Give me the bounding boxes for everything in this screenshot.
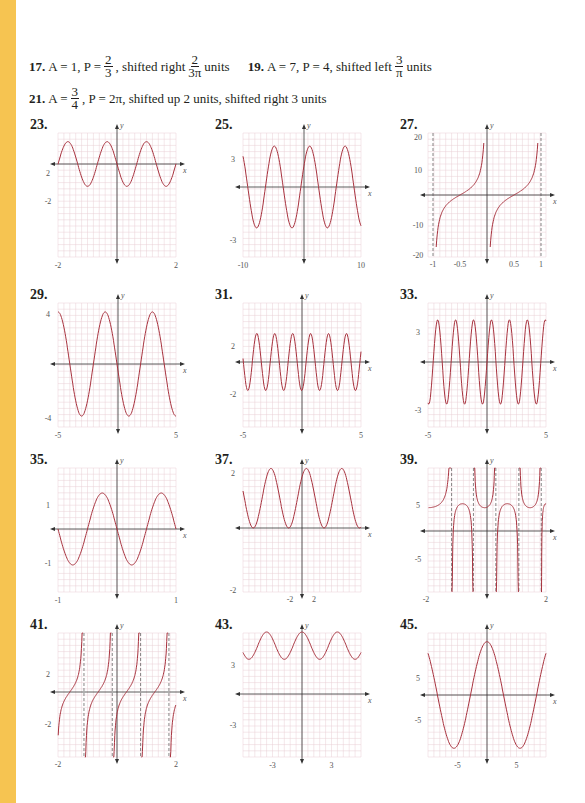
svg-text:-2: -2 [45, 720, 52, 729]
graph-plot: xy4-4-55 [30, 287, 230, 457]
svg-text:2: 2 [46, 169, 50, 178]
svg-text:y: y [304, 456, 309, 465]
graph-panel-43: 43.xy3-3-33 [215, 617, 395, 777]
svg-text:y: y [304, 291, 309, 300]
svg-text:3: 3 [330, 761, 334, 770]
svg-text:-4: -4 [45, 414, 52, 423]
svg-text:-2: -2 [230, 390, 237, 399]
svg-text:2: 2 [231, 469, 235, 478]
svg-text:10: 10 [414, 166, 422, 175]
graph-plot: xy2-2-22 [30, 617, 230, 787]
answer-17-19: 17. A = 1, P = 23 , shifted right 23π un… [29, 54, 432, 79]
accent-strip [0, 0, 16, 803]
svg-text:2: 2 [544, 595, 548, 604]
svg-text:y: y [306, 121, 311, 130]
x-arrow-icon [235, 692, 240, 696]
x-arrow-icon [50, 362, 55, 366]
svg-text:y: y [489, 121, 494, 130]
answer-number: 21. [29, 91, 45, 107]
y-arrow-icon [302, 124, 306, 129]
svg-text:-2: -2 [55, 760, 62, 769]
x-arrow-icon [235, 360, 240, 364]
graph-plot: xy2-2-55 [215, 287, 415, 457]
svg-text:2: 2 [312, 595, 316, 604]
svg-text:-3: -3 [230, 721, 237, 730]
answer-text: , shifted right [116, 59, 186, 75]
x-arrow-icon [420, 693, 425, 697]
y-arrow-icon [116, 294, 120, 299]
svg-text:-1: -1 [45, 559, 52, 568]
svg-text:-2: -2 [55, 261, 62, 270]
svg-text:-10: -10 [238, 261, 249, 270]
y-arrow-icon [300, 594, 304, 599]
y-arrow-icon [300, 294, 304, 299]
graph-panel-37: 37.xy2-2-22 [215, 452, 395, 612]
y-arrow-icon [302, 259, 306, 264]
svg-text:-5: -5 [240, 431, 247, 440]
answer-text: units [204, 59, 229, 75]
svg-text:-5: -5 [415, 555, 422, 564]
denominator: 3π [188, 67, 201, 79]
y-arrow-icon [485, 124, 489, 129]
denominator: 3 [105, 67, 112, 79]
svg-text:-2: -2 [45, 197, 52, 206]
x-arrow-icon [50, 162, 55, 166]
y-arrow-icon [485, 459, 489, 464]
svg-text:5: 5 [544, 431, 548, 440]
svg-text:1: 1 [46, 501, 50, 510]
svg-text:x: x [367, 364, 372, 373]
y-arrow-icon [485, 594, 489, 599]
svg-text:2: 2 [174, 760, 178, 769]
x-arrow-icon [420, 529, 425, 533]
svg-text:2: 2 [231, 342, 235, 351]
svg-text:x: x [182, 366, 187, 375]
fraction: 3π [395, 54, 404, 79]
graph-plot: xy2010-10-20-1-0.50.51 [400, 117, 585, 287]
y-arrow-icon [300, 624, 304, 629]
svg-text:x: x [182, 694, 187, 703]
y-arrow-icon [485, 429, 489, 434]
svg-text:3: 3 [231, 661, 235, 670]
svg-text:x: x [182, 531, 187, 540]
x-arrow-icon [50, 527, 55, 531]
y-arrow-icon [485, 294, 489, 299]
x-arrow-icon [420, 360, 425, 364]
answer-text: A = 1, P = [48, 59, 101, 75]
svg-text:20: 20 [414, 133, 422, 142]
graph-plot: xy1-1-11 [30, 452, 230, 622]
svg-text:-20: -20 [413, 251, 424, 260]
fraction: 23π [188, 54, 201, 79]
svg-text:y: y [304, 621, 309, 630]
svg-text:-1: -1 [55, 596, 62, 605]
svg-text:y: y [489, 291, 494, 300]
graph-plot: xy2-2-22 [30, 117, 230, 287]
denominator: 4 [72, 99, 79, 111]
y-arrow-icon [300, 429, 304, 434]
svg-text:-3: -3 [230, 236, 237, 245]
svg-text:x: x [367, 530, 372, 539]
svg-text:-2: -2 [230, 586, 237, 595]
svg-text:5: 5 [416, 674, 420, 683]
denominator: π [396, 67, 403, 79]
svg-text:y: y [119, 121, 124, 130]
svg-text:5: 5 [416, 501, 420, 510]
svg-text:y: y [489, 621, 494, 630]
x-arrow-icon [420, 193, 425, 197]
svg-text:5: 5 [515, 761, 519, 770]
y-arrow-icon [485, 624, 489, 629]
answer-text: A = [48, 91, 67, 107]
answer-number: 17. [29, 59, 45, 75]
y-arrow-icon [300, 459, 304, 464]
y-arrow-icon [116, 429, 120, 434]
svg-text:-5: -5 [415, 716, 422, 725]
graph-panel-27: 27.xy2010-10-20-1-0.50.51 [400, 117, 580, 277]
graph-plot: xy5-5-22 [400, 452, 585, 622]
svg-text:x: x [552, 197, 557, 206]
svg-text:y: y [120, 291, 125, 300]
svg-text:-0.5: -0.5 [454, 260, 467, 269]
svg-text:1: 1 [539, 260, 543, 269]
fraction: 34 [71, 86, 80, 111]
graph-panel-25: 25.xy3-3-1010 [215, 117, 395, 277]
answer-number: 19. [248, 59, 264, 75]
svg-text:5: 5 [359, 431, 363, 440]
